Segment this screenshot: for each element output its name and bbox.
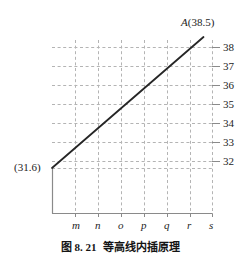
figure-caption-text: 等高线内插原理	[103, 241, 180, 253]
y-axis-ticks	[212, 48, 220, 162]
figure-contour-interpolation: A(38.5) (31.6) 38 37 36 35 34 33 32 m n …	[0, 0, 241, 260]
x-tick-label-n: n	[95, 220, 101, 231]
y-tick-label-36: 36	[223, 80, 234, 91]
vertical-gridlines	[76, 40, 213, 213]
endpoint-a-value: (38.5)	[188, 16, 215, 28]
y-tick-label-35: 35	[223, 99, 234, 110]
endpoint-label-start: (31.6)	[14, 162, 41, 173]
x-tick-label-r: r	[187, 220, 191, 231]
y-tick-label-34: 34	[223, 118, 234, 129]
interpolation-line	[52, 37, 204, 168]
endpoint-a-name: A	[181, 16, 188, 28]
endpoint-label-a: A(38.5)	[181, 17, 214, 28]
figure-caption-number: 图 8. 21	[61, 241, 97, 253]
x-tick-label-p: p	[141, 220, 147, 231]
y-tick-label-33: 33	[223, 137, 234, 148]
x-tick-label-m: m	[72, 220, 80, 231]
x-tick-label-o: o	[118, 220, 124, 231]
x-tick-label-s: s	[209, 220, 213, 231]
x-tick-label-q: q	[164, 220, 170, 231]
figure-caption: 图 8. 21等高线内插原理	[0, 238, 241, 254]
y-tick-label-38: 38	[223, 42, 234, 53]
y-tick-label-32: 32	[223, 156, 234, 167]
y-tick-label-37: 37	[223, 61, 234, 72]
